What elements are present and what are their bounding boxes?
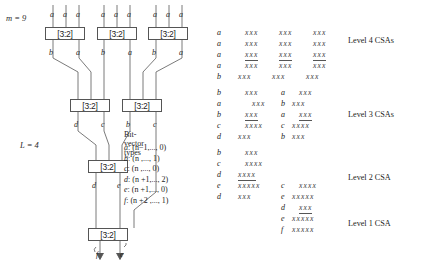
dot-diagram-row: cxxxx bbox=[213, 159, 426, 170]
dot-row-tag: e bbox=[217, 181, 221, 190]
dot-row-tag: b bbox=[217, 148, 221, 157]
bit-vector-type-range: : (n ,..., 0) bbox=[128, 164, 160, 173]
dot-group: xxxx bbox=[299, 181, 317, 190]
input-bit-label: a bbox=[76, 10, 80, 19]
dot-group: xxx bbox=[279, 61, 292, 70]
dot-group: xxxx bbox=[245, 159, 263, 168]
dot-group: xxx bbox=[313, 50, 326, 61]
dot-diagram-row: cxxxxcxxxx bbox=[213, 121, 426, 132]
dot-group: xxx bbox=[238, 192, 251, 201]
dot-group: xxxxx bbox=[292, 214, 314, 223]
dot-row-tag: b bbox=[217, 110, 221, 119]
dot-diagram-row: dxxxx bbox=[213, 170, 426, 181]
dot-group: xxx bbox=[245, 88, 258, 97]
dot-diagram-row: axxxxxxxxx bbox=[213, 28, 426, 39]
dot-row-tag: e bbox=[281, 214, 285, 223]
dot-diagram-row: dxxx bbox=[213, 203, 426, 214]
dot-group: xxx bbox=[238, 72, 251, 81]
dot-group: xxxx bbox=[245, 121, 263, 130]
dot-row-tag: e bbox=[281, 192, 285, 201]
dot-row-tag: b bbox=[217, 72, 221, 81]
dot-group: xxx bbox=[292, 132, 305, 141]
dot-row-tag: d bbox=[217, 170, 221, 179]
dot-group: xxxxx bbox=[292, 192, 314, 201]
dot-group: xxxxx bbox=[238, 181, 260, 190]
dot-diagram-row: axxxxxxxxx bbox=[213, 50, 426, 61]
csa-tree-figure: m = 9 L = 4 [3:2][3:2][3:2][3:2][3:2][3:… bbox=[0, 0, 426, 268]
wire-bit-label: a bbox=[76, 48, 80, 57]
csa-l4-3: [3:2] bbox=[148, 27, 188, 40]
wire-bit-label: a bbox=[179, 48, 183, 57]
dot-diagram-row: bxxxaxxx bbox=[213, 88, 426, 99]
csa-box-label: [3:2] bbox=[149, 28, 187, 41]
dot-diagram-row: axxxbxxx bbox=[213, 99, 426, 110]
dot-group: xxx bbox=[292, 99, 305, 108]
input-bit-label: a bbox=[101, 10, 105, 19]
dot-group: xxx bbox=[245, 39, 258, 48]
dot-diagram-row: exxxxx bbox=[213, 214, 426, 225]
dot-row-tag: b bbox=[217, 88, 221, 97]
bit-vector-type-row: a: (n−1,..., 0) bbox=[124, 143, 166, 152]
dot-row-tag: a bbox=[217, 61, 221, 70]
dot-group: xxx bbox=[245, 110, 258, 121]
wire-bit-label: e bbox=[120, 250, 124, 259]
dot-group: xxx bbox=[245, 28, 258, 37]
csa-l3-1: [3:2] bbox=[70, 99, 110, 112]
dot-row-tag: a bbox=[217, 28, 221, 37]
dot-diagram-row: axxxxxxxxx bbox=[213, 39, 426, 50]
csa-box-label: [3:2] bbox=[46, 28, 84, 41]
csa-box-label: [3:2] bbox=[89, 161, 127, 174]
dot-group: xxx bbox=[299, 110, 312, 121]
wire-bit-label: f bbox=[96, 250, 98, 259]
input-bit-label: a bbox=[63, 10, 67, 19]
bit-vector-type-row: f: (n +2 ,..., 1) bbox=[124, 196, 168, 205]
bit-vector-type-range: : (n +2 ,..., 1) bbox=[126, 196, 168, 205]
wire-bit-label: c bbox=[101, 120, 105, 129]
input-bit-label: a bbox=[166, 10, 170, 19]
dot-group: xxx bbox=[299, 203, 312, 214]
csa-box-label: [3:2] bbox=[89, 229, 127, 242]
dot-row-tag: b bbox=[281, 132, 285, 141]
dot-row-tag: d bbox=[281, 203, 285, 212]
dot-group: xxxx bbox=[238, 170, 256, 181]
dot-row-tag: c bbox=[281, 121, 285, 130]
wire-bit-label: b bbox=[49, 48, 53, 57]
dot-row-tag: a bbox=[217, 39, 221, 48]
csa-level-label: Level 4 CSAs bbox=[348, 36, 394, 45]
dot-group: xxx bbox=[306, 72, 319, 81]
bit-vector-type-row: c: (n ,..., 0) bbox=[124, 164, 159, 173]
dot-diagram: axxxxxxxxxaxxxxxxxxxaxxxxxxxxxaxxxxxxxxx… bbox=[213, 0, 426, 268]
dot-diagram-row: bxxx bbox=[213, 148, 426, 159]
dot-group: xxxx bbox=[292, 121, 310, 130]
csa-l1-1: [3:2] bbox=[88, 228, 128, 241]
bit-vector-type-row: b: (n ,..., 1) bbox=[124, 154, 160, 163]
bit-vector-type-range: : (n−1,..., 0) bbox=[128, 143, 166, 152]
bit-vector-type-range: : (n ,..., 1) bbox=[128, 154, 160, 163]
csa-l4-1: [3:2] bbox=[45, 27, 85, 40]
dot-row-tag: d bbox=[217, 192, 221, 201]
bit-vector-type-range: : (n +1,..., 2) bbox=[128, 175, 168, 184]
dot-group: xxx bbox=[245, 148, 258, 157]
csa-l2-1: [3:2] bbox=[88, 160, 128, 173]
csa-l4-2: [3:2] bbox=[97, 27, 137, 40]
dot-group: xxx bbox=[313, 28, 326, 37]
dot-group: xxx bbox=[299, 88, 312, 97]
dot-row-tag: f bbox=[281, 225, 283, 234]
bit-vector-type-range: : (n +1,..., 0) bbox=[128, 185, 168, 194]
wire-bit-label: b bbox=[152, 48, 156, 57]
dot-row-tag: a bbox=[217, 50, 221, 59]
input-bit-label: a bbox=[50, 10, 54, 19]
csa-level-label: Level 2 CSA bbox=[348, 173, 391, 182]
wire-bit-label: d bbox=[92, 181, 96, 190]
dot-group: xxx bbox=[279, 28, 292, 37]
wire-bit-label: c bbox=[153, 120, 157, 129]
input-bit-label: a bbox=[127, 10, 131, 19]
dot-diagram-row: bxxxaxxx bbox=[213, 110, 426, 121]
dot-group: xxx bbox=[245, 50, 258, 61]
bit-vector-type-row: e: (n +1,..., 0) bbox=[124, 185, 168, 194]
dot-diagram-row: exxxxxcxxxx bbox=[213, 181, 426, 192]
dot-row-tag: c bbox=[217, 159, 221, 168]
dot-group: xxx bbox=[313, 39, 326, 48]
dot-row-tag: a bbox=[281, 88, 285, 97]
dot-group: xxxxx bbox=[292, 225, 314, 234]
